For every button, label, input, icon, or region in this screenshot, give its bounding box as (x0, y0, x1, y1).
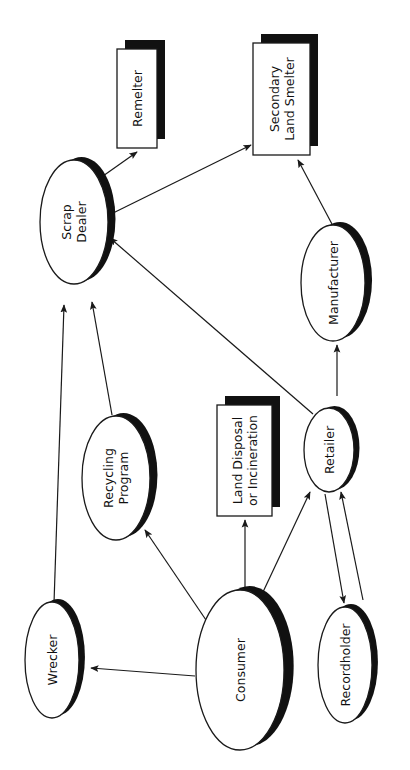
node-label-line: Recycling (101, 448, 116, 508)
node-label: Remelter (130, 69, 145, 127)
node-label-line: Manufacturer (326, 240, 341, 325)
node-recycling-program: RecyclingProgram (82, 413, 157, 540)
edge-retailer-to-recordholder (325, 494, 344, 603)
node-label-line: Dealer (74, 201, 89, 243)
edge-recordholder-to-retailer (341, 492, 363, 600)
node-label-line: Remelter (130, 69, 145, 127)
edge-scrap-dealer-to-secondary-land-smelter (107, 145, 251, 216)
edge-consumer-to-recycling-program (145, 530, 206, 620)
node-retailer: Retailer (304, 406, 360, 492)
node-label: Manufacturer (326, 240, 341, 325)
node-label-line: Recordholder (338, 623, 353, 707)
node-label: Consumer (233, 637, 248, 702)
node-label-line: Program (116, 452, 131, 505)
node-label-line: Wrecker (45, 634, 60, 686)
node-label: Retailer (322, 425, 337, 474)
node-label-line: Retailer (322, 425, 337, 474)
edge-manufacturer-to-secondary-land-smelter (298, 160, 333, 226)
node-manufacturer: Manufacturer (301, 222, 372, 341)
node-secondary-land-smelter: SecondaryLand Smelter (253, 34, 318, 155)
node-label: RecyclingProgram (101, 448, 131, 508)
flow-diagram: RemelterSecondaryLand SmelterScrapDealer… (0, 0, 410, 770)
edge-consumer-to-wrecker (91, 668, 195, 676)
node-scrap-dealer: ScrapDealer (40, 157, 115, 284)
node-label: SecondaryLand Smelter (267, 56, 297, 140)
node-land-disposal: Land Disposalor Incineration (217, 396, 280, 516)
edge-retailer-to-scrap-dealer (110, 238, 313, 414)
node-label-line: or Incineration (245, 415, 260, 506)
node-recordholder: Recordholder (318, 604, 378, 723)
edge-wrecker-to-scrap-dealer (54, 305, 64, 603)
node-label-line: Scrap (59, 204, 74, 240)
node-label-line: Land Disposal (230, 417, 245, 504)
node-label-line: Secondary (267, 65, 282, 132)
node-label: Land Disposalor Incineration (230, 415, 260, 506)
node-label: Recordholder (338, 623, 353, 707)
node-label: ScrapDealer (59, 201, 89, 243)
nodes-layer: RemelterSecondaryLand SmelterScrapDealer… (25, 34, 378, 750)
node-label-line: Consumer (233, 637, 248, 702)
node-wrecker: Wrecker (25, 599, 85, 718)
node-label: Wrecker (45, 634, 60, 686)
node-consumer: Consumer (196, 586, 294, 750)
node-remelter: Remelter (117, 40, 165, 148)
node-label-line: Land Smelter (282, 56, 297, 140)
edge-recycling-program-to-scrap-dealer (92, 302, 112, 415)
